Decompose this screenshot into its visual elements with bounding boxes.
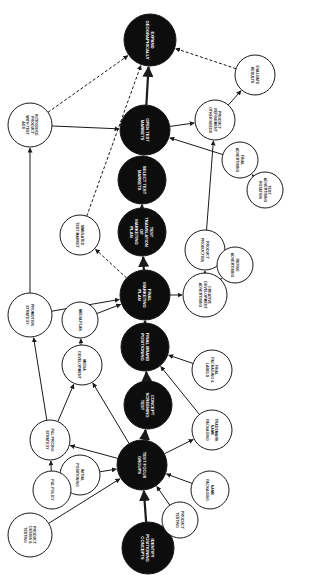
main-node-m4: FINAL BRANDPOSITIONING (121, 323, 169, 371)
main-node-m2: TEST FOCUSGROUPS (117, 440, 167, 490)
side-node-s1: PRODUCTDESIGN &TESTING (8, 513, 52, 557)
node-label: EVALUATERESULTS (250, 66, 258, 85)
node-label: P&L PRICINGSTRATEGY (45, 428, 53, 451)
edge-s2-m2 (100, 469, 117, 472)
side-node-s8: MEDIADEVELOPMENT (62, 345, 102, 385)
edge-m8-s18 (170, 123, 194, 126)
node-label: PRODUCTDESIGN &TESTING (23, 526, 36, 545)
side-node-s19: EVALUATERESULTS (235, 55, 275, 95)
main-node-m3: CONCEPTSCREENINGTEST (124, 381, 172, 429)
side-node-s20: INTRODUCEPRODUCTWITH TESTADS (8, 103, 52, 147)
side-node-s5: NAMEPACKAGING (191, 471, 229, 509)
side-node-s4: PRODUCTTESTING (162, 502, 198, 538)
main-node-m5: FINALMARKETINGPLAN (120, 270, 170, 320)
node-label: PRODUCTPRODUCTION (200, 238, 208, 263)
side-node-s17: TESTADVERTISINGROTATION (247, 172, 283, 208)
edge-s14-s18 (207, 141, 214, 230)
edge-s9-m5 (97, 304, 121, 313)
edge-m8-m9 (146, 67, 148, 105)
edge-s19-m9 (176, 49, 236, 69)
side-node-s18: PRODUCTREFINEMENTOTHER NEEDS (195, 100, 235, 140)
side-node-s13: CREATIVEDEVELOPMENTADVERTISING (183, 273, 227, 317)
side-node-s16: FINALADVERTISING (222, 142, 258, 178)
side-node-s6: TRADEMARKNAMEPACKAGING (192, 410, 232, 450)
nodes: IDENTIFYPOSITIONINGCONCEPTSTEST FOCUSGRO… (8, 14, 283, 574)
edge-s10-m4 (169, 355, 193, 363)
side-node-s9: MEDIA PLAN (62, 302, 98, 338)
main-node-m9: EXPANDGEOGRAPHICALLY (124, 14, 176, 66)
side-node-s7: P&L PRICINGSTRATEGY (30, 420, 70, 460)
node-label: PROMOTIONSTRATEGY (25, 304, 33, 327)
edge-m2-s6 (164, 439, 193, 453)
node-label: SIMULATEDTEST MARKET (75, 222, 83, 248)
diagram-canvas: IDENTIFYPOSITIONINGCONCEPTSTEST FOCUSGRO… (0, 0, 312, 586)
main-node-m6: TESTTRANSLATIONOFMARKETINGPLAN (118, 208, 166, 256)
edge-m1-m2 (144, 491, 146, 522)
side-node-s10: FINALPACKAGING &LABELS (192, 350, 232, 390)
edge-s7-s11 (34, 338, 47, 421)
edge-s7-s8 (58, 384, 74, 421)
node-label: PRODUCTTESTING (175, 511, 183, 530)
edge-s18-s19 (228, 91, 241, 105)
flowchart-svg: IDENTIFYPOSITIONINGCONCEPTSTEST FOCUSGRO… (0, 0, 312, 586)
edge-m5-s12 (95, 249, 126, 278)
edge-m2-s8 (93, 383, 129, 444)
edge-s20-m9 (48, 56, 128, 113)
edge-s20-m8 (52, 126, 119, 129)
edge-s5-m2 (166, 474, 192, 483)
node-label: OPEN TESTMARKETS (140, 118, 150, 142)
edge-m5-m6 (143, 257, 144, 270)
side-node-s12: SIMULATEDTEST MARKET (60, 215, 100, 255)
main-node-m8: OPEN TESTMARKETS (120, 105, 170, 155)
edge-s4-m2 (157, 486, 170, 505)
node-label: FINAL BRANDPOSITIONING (140, 333, 150, 362)
node-label: SELECT TESTMARKETS (137, 166, 147, 195)
side-node-s11: PROMOTIONSTRATEGY (8, 293, 52, 337)
side-node-s3: P&L POLICY (33, 471, 71, 509)
side-node-s15: REFINEADVERTISING (217, 247, 253, 283)
node-label: MEDIA PLAN (78, 309, 82, 332)
node-label: P&L POLICY (50, 479, 54, 501)
main-node-m7: SELECT TESTMARKETS (118, 156, 166, 204)
edge-m2-m3 (144, 430, 145, 440)
